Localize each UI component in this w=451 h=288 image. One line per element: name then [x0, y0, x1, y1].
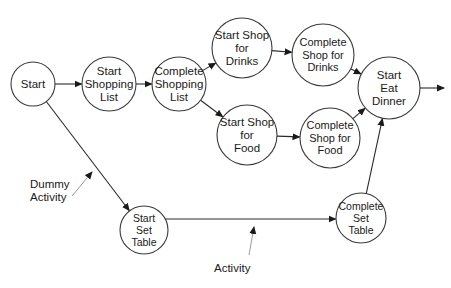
node-label: Complete	[306, 119, 353, 131]
node-start: Start	[11, 62, 55, 106]
node-label: Start Shop	[215, 29, 269, 41]
node-label: Table	[131, 236, 156, 248]
node-label: Food	[317, 144, 342, 156]
node-label: Complete	[299, 36, 346, 48]
annotation-label: Activity	[30, 191, 67, 203]
node-start-shop-drinks: Start ShopforDrinks	[212, 18, 272, 78]
activity-annotation: Activity	[214, 227, 254, 274]
annotation-label: Activity	[214, 262, 251, 274]
node-start-set-table: StartSetTable	[120, 206, 168, 254]
node-label: Shop for	[302, 49, 344, 61]
node-label: Shopping	[155, 78, 204, 90]
node-complete-shopping-list: CompleteShoppingList	[152, 57, 206, 111]
annotation-pointer-arrow	[249, 227, 254, 255]
node-label: Complete	[154, 65, 203, 77]
network-diagram: DummyActivityActivity StartStartShopping…	[0, 0, 451, 288]
node-start-shop-food: Start ShopforFood	[217, 105, 277, 165]
node-complete-shop-drinks: CompleteShop forDrinks	[292, 24, 354, 86]
node-label: Set	[353, 212, 369, 224]
node-label: Start	[133, 212, 155, 224]
node-label: Set	[136, 224, 152, 236]
node-label: Complete	[339, 200, 384, 212]
edge-arrow	[201, 100, 223, 117]
node-label: List	[100, 91, 119, 103]
node-start-shopping-list: StartShoppingList	[82, 57, 136, 111]
node-label: Dinner	[372, 95, 406, 107]
node-label: List	[170, 91, 189, 103]
node-complete-shop-food: CompleteShop forFood	[300, 108, 360, 168]
node-label: Food	[234, 142, 260, 154]
node-label: Start	[377, 69, 402, 81]
node-label: Start	[21, 78, 46, 90]
node-label: for	[235, 42, 249, 54]
node-label: Drinks	[307, 61, 339, 73]
edge-arrow	[202, 63, 215, 70]
edge-arrow	[272, 51, 292, 53]
node-label: Table	[348, 224, 373, 236]
edge-arrow	[366, 119, 382, 194]
node-start-eat-dinner: StartEatDinner	[358, 57, 420, 119]
node-label: Shop for	[309, 132, 351, 144]
node-label: Shopping	[85, 78, 134, 90]
node-label: Start	[97, 65, 122, 77]
edge-arrow	[277, 136, 300, 137]
annotation-pointer-arrow	[72, 172, 92, 196]
node-label: Start Shop	[220, 116, 274, 128]
node-label: Drinks	[226, 55, 259, 67]
dummy-activity-annotation: DummyActivity	[30, 172, 92, 203]
node-label: for	[240, 129, 254, 141]
edge-arrow	[351, 69, 361, 74]
edge-arrow	[353, 108, 365, 118]
node-complete-set-table: CompleteSetTable	[336, 193, 386, 243]
annotation-label: Dummy	[30, 178, 70, 190]
node-label: Eat	[380, 82, 398, 94]
